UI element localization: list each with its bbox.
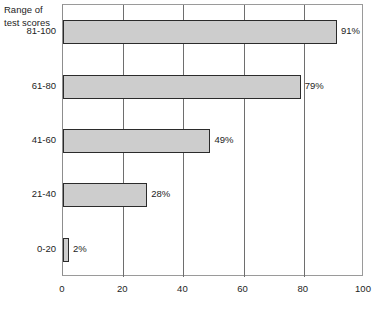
bar [63, 75, 301, 99]
gridline-80 [304, 5, 305, 277]
bar [63, 238, 69, 262]
x-tick-label: 80 [298, 283, 309, 295]
bar-value-label: 91% [341, 25, 360, 37]
bar-chart: Range of test scores 81-10061-8041-6021-… [0, 0, 388, 312]
plot-area [62, 4, 363, 276]
bar-value-label: 79% [305, 80, 324, 92]
bar [63, 183, 147, 207]
category-label: 21-40 [0, 188, 56, 200]
category-label: 61-80 [0, 80, 56, 92]
x-tick-label: 60 [237, 283, 248, 295]
gridline-60 [244, 5, 245, 277]
x-tick-label: 40 [177, 283, 188, 295]
x-tick-label: 20 [117, 283, 128, 295]
x-tick-label: 0 [59, 283, 64, 295]
bar-value-label: 2% [73, 243, 87, 255]
category-label: 41-60 [0, 134, 56, 146]
x-tick-label: 100 [355, 283, 371, 295]
bar [63, 129, 210, 153]
bar [63, 20, 337, 44]
bar-value-label: 28% [151, 188, 170, 200]
category-label: 0-20 [0, 243, 56, 255]
bar-value-label: 49% [214, 134, 233, 146]
category-label: 81-100 [0, 25, 56, 37]
